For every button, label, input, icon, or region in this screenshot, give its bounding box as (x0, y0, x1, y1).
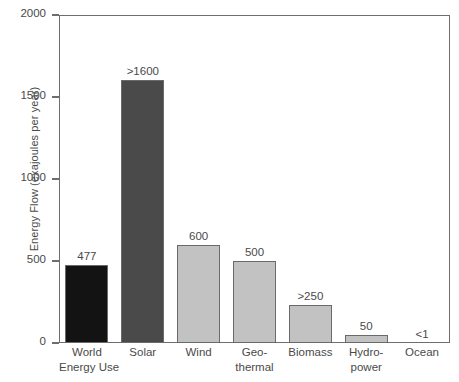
bar-value-label: 600 (163, 230, 234, 242)
x-axis-label-line: Wind (171, 345, 227, 360)
bar[interactable] (289, 305, 332, 343)
energy-flow-bar-chart: Energy Flow (exajoules per year) 0500100… (0, 0, 459, 382)
bar[interactable] (345, 335, 388, 343)
bar-group[interactable]: 500 (233, 15, 276, 343)
x-axis-labels: WorldEnergy UseSolarWindGeo-thermalBioma… (59, 345, 450, 382)
x-axis-label: Wind (171, 345, 227, 360)
x-axis-label: WorldEnergy Use (59, 345, 115, 374)
bar[interactable] (121, 80, 164, 343)
x-axis-label: Solar (115, 345, 171, 360)
bar-group[interactable]: >1600 (121, 15, 164, 343)
x-axis-label-line: Solar (115, 345, 171, 360)
x-axis-label-line: Hydro- (338, 345, 394, 360)
bar-value-label: 477 (51, 250, 122, 262)
x-axis-label: Hydro-power (338, 345, 394, 374)
y-tick-label: 0 (0, 335, 46, 347)
y-tick-label: 2000 (0, 7, 46, 19)
bar-value-label: 500 (219, 246, 290, 258)
y-tick-label: 1500 (0, 89, 46, 101)
x-axis-label: Biomass (282, 345, 338, 360)
bar[interactable] (65, 265, 108, 343)
x-axis-label-line: World (59, 345, 115, 360)
x-axis-label-line: Energy Use (59, 360, 115, 375)
bar-value-label: >250 (275, 290, 346, 302)
x-axis-label-line: power (338, 360, 394, 375)
x-axis-label-line: Geo- (227, 345, 283, 360)
bar-group[interactable]: 600 (177, 15, 220, 343)
bar-value-label: <1 (387, 328, 458, 340)
x-axis-label: Ocean (394, 345, 450, 360)
y-tick-mark (52, 178, 59, 179)
bar-value-label: >1600 (107, 65, 178, 77)
x-axis-label-line: Biomass (282, 345, 338, 360)
bars-layer: 477>1600600500>25050<1 (59, 15, 450, 343)
y-tick-mark (52, 14, 59, 15)
bar[interactable] (177, 245, 220, 343)
bar-group[interactable]: <1 (401, 15, 444, 343)
bar[interactable] (233, 261, 276, 343)
y-tick-label: 500 (0, 253, 46, 265)
x-axis-label-line: Ocean (394, 345, 450, 360)
bar-group[interactable]: 50 (345, 15, 388, 343)
x-axis-label: Geo-thermal (227, 345, 283, 374)
y-tick-mark (52, 96, 59, 97)
y-tick-label: 1000 (0, 171, 46, 183)
y-tick-mark (52, 342, 59, 343)
bar-group[interactable]: 477 (65, 15, 108, 343)
x-axis-label-line: thermal (227, 360, 283, 375)
bar-group[interactable]: >250 (289, 15, 332, 343)
